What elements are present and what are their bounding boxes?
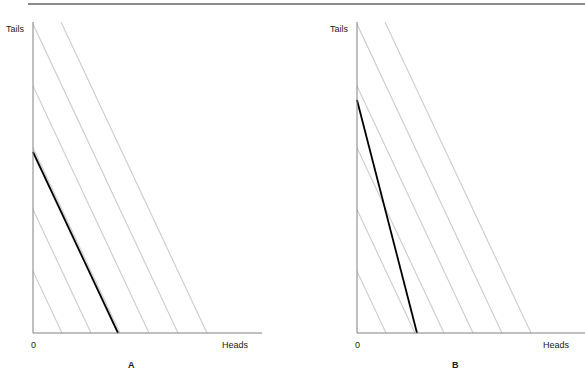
panel-b [0,0,585,333]
indifference-curve-6 [102,0,502,333]
panel-b-budget-line [357,100,417,333]
top-horizontal-rule [28,3,585,5]
indifference-curve-7 [0,0,207,333]
panel-a-y-axis-label: Tails [6,24,24,34]
panel-b-indifference-curves [0,0,531,333]
panel-a-x-axis-label: Heads [222,340,248,350]
panel-a-origin-label: 0 [31,340,36,350]
panel-a-label: A [128,360,135,370]
indifference-curve-4 [44,0,444,333]
panel-b-y-axis-label: Tails [330,24,348,34]
indifference-curve-1 [0,0,33,333]
indifference-curve-4 [0,0,120,333]
panel-a-indifference-curves [0,0,207,333]
indifference-curve-5 [73,0,473,333]
panel-b-x-axis-label: Heads [543,340,569,350]
panel-b-origin-label: 0 [355,340,360,350]
plot-canvas [0,0,585,388]
indifference-curve-7 [131,0,531,333]
indifference-curve-2 [0,0,386,333]
panel-a [0,0,262,333]
indifference-curve-6 [0,0,178,333]
indifference-curve-2 [0,0,62,333]
figure-container: Tails Heads 0 A Tails Heads 0 B [0,0,585,388]
indifference-curve-1 [0,0,357,333]
panel-b-label: B [452,360,459,370]
indifference-curve-3 [15,0,415,333]
